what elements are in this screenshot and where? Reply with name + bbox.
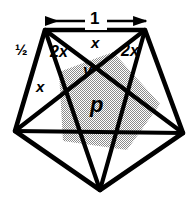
dimension-label-one: 1 bbox=[90, 10, 99, 27]
geometry-figure: 1 ½ 2x 2x x x y p bbox=[0, 0, 191, 203]
shaded-pentagon-region bbox=[59, 52, 160, 150]
side-label-half: ½ bbox=[15, 42, 28, 57]
shaded-inner-pentagon-group bbox=[59, 52, 160, 150]
chord-line bbox=[15, 131, 183, 133]
angle-label-x-top: x bbox=[91, 35, 99, 50]
angle-label-2x-left: 2x bbox=[50, 44, 68, 60]
angle-label-x-left: x bbox=[36, 79, 44, 94]
segment-label-y: y bbox=[83, 63, 92, 79]
area-label-p: p bbox=[90, 94, 103, 116]
angle-label-2x-right: 2x bbox=[121, 43, 139, 59]
